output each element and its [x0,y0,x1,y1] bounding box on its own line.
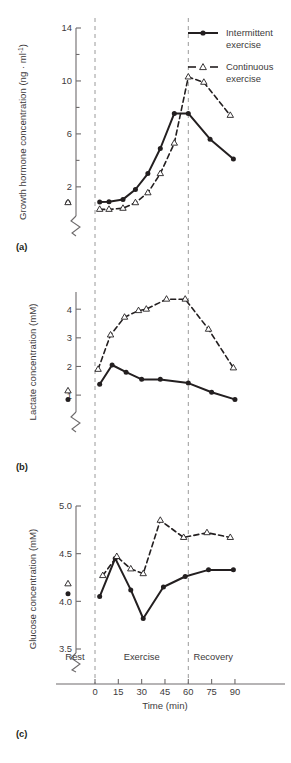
data-point-c-1-4 [157,517,163,523]
y-tick-label-b-2: 3 [67,332,72,343]
y-tick-label-a-2: 10 [62,75,72,86]
axis-titles: Growth hormone concentration (ng · ml-1)… [16,27,285,739]
data-point-c-0-0 [97,594,102,599]
data-point-b-0-6 [209,390,214,395]
legend-label-1-line2: exercise [226,73,261,84]
data-point-a-0-9 [231,157,236,162]
y-tick-label-b-1: 2 [67,361,72,372]
data-point-c-0-3 [141,616,146,621]
data-point-a-1-6 [171,140,177,146]
data-point-a-1-3 [132,199,138,205]
data-point-a-0-3 [133,187,138,192]
data-point-c-0-2 [128,587,133,592]
x-tick-label-4: 60 [183,686,193,697]
x-tick-label-1: 15 [113,686,123,697]
series-a-1: Growth hormone concentration (ng · ml-1)… [16,27,285,739]
data-point-a-1-7 [185,73,191,79]
data-point-a-1-5 [157,170,163,176]
x-tick-label-6: 90 [230,686,240,697]
legend-marker-1 [200,64,207,70]
phase-divider-lines: 26101412343.54.04.55.0Growth hormone con… [16,18,285,739]
data-point-b-1-1 [107,331,113,337]
data-point-c-0-4 [161,585,166,590]
y-axis-break-a [71,216,80,236]
data-point-c-0-5 [183,574,188,579]
rest-marker-c-1 [65,580,71,586]
data-point-a-0-8 [208,137,213,142]
y-axis-a: 26101412343.54.04.55.0Growth hormone con… [16,22,285,739]
series-line-b-0 [100,365,235,399]
y-tick-label-c-1: 4.0 [59,596,72,607]
panel-c: 3.54.04.55.0Growth hormone concentration… [16,27,285,739]
data-point-b-0-7 [232,397,237,402]
data-point-c-1-1 [114,553,120,559]
data-point-b-1-5 [163,296,169,302]
panel-a: 26101412343.54.04.55.0Growth hormone con… [16,22,285,739]
legend-marker-0 [200,30,205,35]
data-point-a-0-6 [172,111,177,116]
legend-label-0-line2: exercise [226,39,261,50]
phase-label-0: Rest [65,651,85,662]
legend-label-0-line1: Intermittent [226,27,273,38]
data-point-b-0-1 [110,363,115,368]
figure-container: 26101412343.54.04.55.0Growth hormone con… [0,0,291,763]
panel-label-b: (b) [16,461,28,472]
data-point-c-0-6 [206,567,211,572]
x-tick-label-0: 0 [92,686,97,697]
rest-point-b-1: Growth hormone concentration (ng · ml-1)… [16,27,285,739]
y-axis-b: 12343.54.04.55.0Growth hormone concentra… [16,27,285,739]
panel-label-c: (c) [16,728,27,739]
data-point-b-0-4 [158,377,163,382]
panel-b: 12343.54.04.55.0Growth hormone concentra… [16,27,285,739]
rest-marker-c-0 [66,591,71,596]
y-tick-label-a-1: 6 [67,128,72,139]
series-line-a-0 [100,113,234,202]
data-point-a-0-0 [97,200,102,205]
legend-item-0: IntermittentexerciseContinuousexercise [188,27,274,84]
series-line-a-1 [100,77,231,209]
y-tick-label-a-0: 2 [67,181,72,192]
y-axis-title-a: Growth hormone concentration (ng · ml-1) [17,44,28,220]
series-line-b-1 [98,299,233,369]
data-point-a-0-5 [158,146,163,151]
legend-label-1-line1: Continuous [226,61,274,72]
data-point-b-0-2 [124,370,129,375]
data-point-a-0-1 [106,199,111,204]
data-point-b-1-0 [95,366,101,372]
data-point-b-0-5 [186,381,191,386]
rest-point-c-0: Growth hormone concentration (ng · ml-1)… [16,27,285,739]
y-tick-label-c-2: 4.5 [59,548,72,559]
data-point-b-0-0 [97,382,102,387]
phase-labels: RestExerciseRecoveryIntermittentexercise… [65,27,273,662]
series-c-0: Growth hormone concentration (ng · ml-1)… [16,27,285,739]
data-point-a-0-4 [145,171,150,176]
data-point-a-1-4 [145,189,151,195]
rest-point-b-0: Growth hormone concentration (ng · ml-1)… [16,27,285,739]
x-tick-label-5: 75 [206,686,216,697]
y-tick-label-c-3: 5.0 [59,500,72,511]
y-tick-label-b-3: 4 [67,304,72,315]
data-point-b-0-3 [139,377,144,382]
phase-label-2: Recovery [193,651,233,662]
series-c-1: Growth hormone concentration (ng · ml-1)… [16,27,285,739]
series-a-0: Growth hormone concentration (ng · ml-1)… [16,27,285,739]
data-point-b-1-7 [205,326,211,332]
data-point-a-1-8 [201,79,207,85]
x-tick-label-2: 30 [136,686,146,697]
y-axis-title-c: Glucose concentration (mM) [27,529,38,650]
y-axis-title-b: Lactate concentration (mM) [27,304,38,421]
x-axis: 0153045607590Time (min)RestExerciseRecov… [56,27,285,711]
series-line-c-0 [100,558,234,618]
series-b-0: Growth hormone concentration (ng · ml-1)… [16,27,285,739]
data-point-c-0-7 [231,567,236,572]
series-line-c-1 [103,520,231,575]
rest-point-c-1: Growth hormone concentration (ng · ml-1)… [16,27,285,739]
rest-point-a-0: Growth hormone concentration (ng · ml-1)… [16,27,285,739]
y-axis-c: 3.54.04.55.0Growth hormone concentration… [16,27,285,739]
data-point-c-1-6 [204,529,210,535]
rest-point-a-1: Growth hormone concentration (ng · ml-1)… [16,27,285,739]
data-point-a-0-2 [120,197,125,202]
panel-label-a: (a) [16,241,27,252]
phase-label-1: Exercise [124,651,160,662]
panel-letters: (a)(b)(c)0153045607590Time (min)RestExer… [16,27,285,739]
